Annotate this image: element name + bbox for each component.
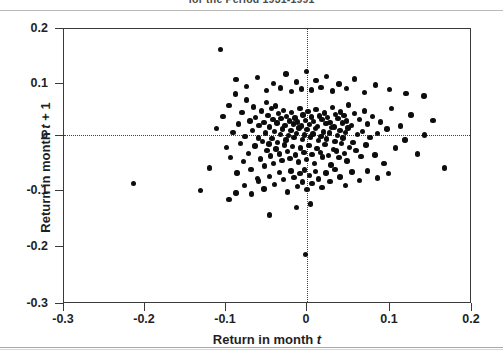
scatter-point — [300, 112, 305, 117]
scatter-point — [353, 148, 358, 153]
scatter-point — [362, 108, 367, 113]
scatter-point — [295, 184, 300, 189]
scatter-point — [339, 141, 344, 146]
scatter-point — [281, 177, 286, 182]
scatter-point — [313, 78, 318, 83]
scatter-point — [352, 111, 357, 116]
scatter-point — [233, 91, 238, 96]
scatter-point — [350, 140, 355, 145]
scatter-point — [291, 175, 296, 180]
scatter-point — [277, 151, 282, 156]
zero-reference-line-horizontal — [64, 135, 470, 136]
page-rule-bottom-shadow — [0, 349, 503, 350]
scatter-point — [276, 111, 281, 116]
scatter-point — [309, 114, 314, 119]
scatter-point — [378, 119, 383, 124]
scatter-point — [442, 165, 447, 170]
scatter-point — [244, 97, 249, 102]
scatter-point — [290, 144, 295, 149]
scatter-point — [300, 137, 305, 142]
scatter-point — [344, 86, 349, 91]
scatter-point — [421, 93, 426, 98]
scatter-point — [337, 174, 342, 179]
scatter-point — [272, 182, 277, 187]
scatter-point — [226, 103, 231, 108]
scatter-point — [269, 106, 274, 111]
scatter-point — [313, 107, 318, 112]
scatter-point — [308, 201, 313, 206]
scatter-point — [239, 110, 244, 115]
scatter-point — [292, 115, 297, 120]
scatter-point — [322, 110, 327, 115]
scatter-point — [342, 151, 347, 156]
scatter-point — [295, 119, 300, 124]
scatter-point — [389, 106, 394, 111]
scatter-point — [287, 118, 292, 123]
zero-reference-line-vertical — [307, 29, 308, 302]
scatter-point — [261, 120, 266, 125]
scatter-point — [287, 156, 292, 161]
y-tick-mark — [55, 28, 63, 29]
scatter-point — [278, 85, 283, 90]
scatter-point — [301, 150, 306, 155]
scatter-point — [283, 71, 288, 76]
scatter-point — [234, 170, 239, 175]
x-axis-title: Return in month t — [63, 332, 471, 347]
y-tick-mark — [55, 83, 63, 84]
scatter-point — [340, 135, 345, 140]
scatter-point — [250, 128, 255, 133]
x-tick-label: 0.2 — [462, 313, 479, 326]
y-tick-mark — [55, 246, 63, 247]
scatter-point — [360, 129, 365, 134]
scatter-point — [322, 142, 327, 147]
scatter-point — [393, 145, 398, 150]
scatter-point — [299, 86, 304, 91]
x-tick-mark — [225, 303, 226, 311]
scatter-point — [198, 188, 203, 193]
scatter-point — [333, 112, 338, 117]
scatter-point — [207, 165, 212, 170]
page-rule-top — [0, 10, 503, 11]
scatter-point — [324, 74, 329, 79]
scatter-point — [265, 113, 270, 118]
scatter-point — [271, 161, 276, 166]
scatter-point — [264, 100, 269, 105]
scatter-point — [347, 145, 352, 150]
scatter-point — [266, 141, 271, 146]
scatter-point — [352, 76, 357, 81]
y-tick-mark — [55, 190, 63, 191]
scatter-point — [316, 176, 321, 181]
scatter-point — [363, 142, 368, 147]
x-tick-mark — [306, 303, 307, 311]
scatter-point — [325, 115, 330, 120]
scatter-point — [384, 126, 389, 131]
x-tick-mark — [389, 303, 390, 311]
plot-area — [63, 28, 471, 303]
scatter-point — [358, 154, 363, 159]
scatter-point — [328, 162, 333, 167]
scatter-point — [218, 47, 223, 52]
scatter-point — [372, 152, 377, 157]
scatter-point — [375, 175, 380, 180]
scatter-point — [326, 153, 331, 158]
scatter-point — [297, 171, 302, 176]
scatter-point — [370, 114, 375, 119]
scatter-point — [271, 81, 276, 86]
scatter-point — [324, 136, 329, 141]
scatter-point — [309, 87, 314, 92]
x-tick-label: -0.2 — [133, 313, 155, 326]
scatter-point — [233, 77, 238, 82]
x-tick-label: 0.1 — [380, 313, 397, 326]
scatter-point — [228, 155, 233, 160]
scatter-point — [349, 123, 354, 128]
x-tick-mark — [471, 303, 472, 311]
scatter-point — [285, 149, 290, 154]
scatter-point — [296, 159, 301, 164]
scatter-point — [294, 205, 299, 210]
scatter-point — [430, 118, 435, 123]
scatter-point — [343, 183, 348, 188]
y-tick-mark — [55, 303, 63, 304]
scatter-point — [297, 106, 302, 111]
scatter-point — [268, 153, 273, 158]
scatter-point — [267, 174, 272, 179]
